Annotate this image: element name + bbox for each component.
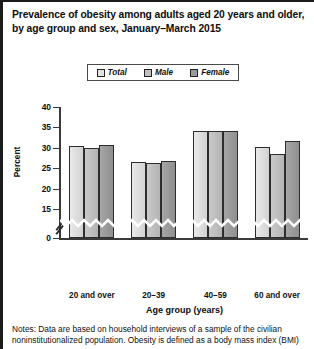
legend-swatch-total	[97, 69, 105, 77]
figure-notes-line1: Notes: Data are based on household inter…	[12, 324, 310, 335]
bar-total	[131, 162, 146, 238]
x-axis-title: Age group (years)	[60, 305, 309, 315]
legend-label-female: Female	[201, 68, 229, 77]
y-axis-title: Percent	[12, 132, 22, 192]
x-axis-label: 60 and over	[254, 291, 300, 300]
bar-total	[193, 131, 208, 238]
y-tick-label-40: 40	[31, 102, 51, 112]
y-tick-label-35: 35	[31, 122, 51, 132]
bar-female	[99, 145, 114, 238]
x-axis-label: 40–59	[204, 291, 227, 300]
y-tick-15	[53, 209, 59, 210]
legend-swatch-female	[190, 69, 198, 77]
bar-group	[123, 107, 185, 238]
bar-male	[270, 154, 285, 238]
bar-total	[69, 146, 84, 238]
bar-male	[208, 131, 223, 238]
bar-group	[61, 107, 123, 238]
y-tick-40	[53, 107, 59, 108]
bar-group	[246, 107, 308, 238]
y-tick-label-30: 30	[31, 143, 51, 153]
bar-male	[84, 148, 99, 238]
bar-male	[146, 163, 161, 238]
y-tick-label-15: 15	[31, 204, 51, 214]
y-tick-20	[53, 189, 59, 190]
legend-item-total: Total	[97, 68, 127, 77]
y-tick-30	[53, 148, 59, 149]
x-axis-line	[59, 238, 308, 240]
legend-label-male: Male	[155, 68, 173, 77]
bar-total	[255, 147, 270, 238]
y-tick-label-0: 0	[31, 233, 51, 243]
legend-item-female: Female	[190, 68, 229, 77]
figure-title-line2: by age group and sex, January–March 2015	[12, 22, 308, 36]
x-axis-label: 20–39	[142, 291, 165, 300]
x-axis-labels: 20 and over20–3940–5960 and over	[61, 291, 308, 303]
y-tick-25	[53, 168, 59, 169]
figure-panel: Prevalence of obesity among adults aged …	[0, 0, 314, 349]
figure-notes-line2: noninstitutionalized population. Obesity…	[12, 335, 310, 346]
bar-group	[185, 107, 247, 238]
bar-groups	[61, 107, 308, 238]
y-tick-0	[53, 238, 59, 239]
figure-title: Prevalence of obesity among adults aged …	[12, 8, 308, 35]
y-tick-35	[53, 127, 59, 128]
bar-female	[285, 141, 300, 238]
y-tick-label-25: 25	[31, 163, 51, 173]
legend-swatch-male	[144, 69, 152, 77]
legend-label-total: Total	[108, 68, 127, 77]
x-axis-label: 20 and over	[69, 291, 115, 300]
bar-female	[161, 161, 176, 238]
figure-notes: Notes: Data are based on household inter…	[12, 324, 310, 346]
bar-female	[223, 131, 238, 238]
notes-divider	[3, 319, 314, 320]
chart-legend: Total Male Female	[87, 64, 239, 81]
figure-title-line1: Prevalence of obesity among adults aged …	[12, 9, 304, 20]
y-tick-label-20: 20	[31, 184, 51, 194]
legend-item-male: Male	[144, 68, 173, 77]
